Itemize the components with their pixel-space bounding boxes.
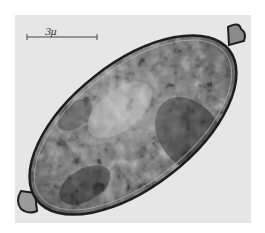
scale-bar-label: 3μ <box>45 26 56 37</box>
egg-micrograph <box>15 15 251 223</box>
micrograph-frame: 3μ <box>15 15 251 223</box>
upper-polar-plug <box>228 24 245 45</box>
scale-bar <box>27 34 97 40</box>
egg <box>15 15 251 223</box>
